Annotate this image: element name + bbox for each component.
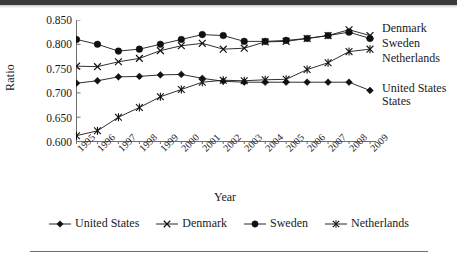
endpoint-label-united-states-line2: States: [382, 95, 411, 108]
y-tick-label: 0.850: [30, 15, 72, 27]
legend-label: Sweden: [270, 216, 308, 231]
legend-label: United States: [75, 216, 139, 231]
legend-marker-icon: [48, 218, 72, 230]
data-series-layer: [76, 26, 373, 139]
endpoint-label-netherlands: Netherlands: [382, 52, 440, 65]
x-axis-tick-labels: 1995199619971998199920002001200220032004…: [76, 144, 396, 188]
y-axis-title: Ratio: [3, 48, 18, 108]
y-tick-label: 0.750: [30, 64, 72, 76]
endpoint-label-sweden: Sweden: [382, 37, 420, 50]
legend-item-sweden[interactable]: Sweden: [243, 216, 308, 231]
legend-item-united-states[interactable]: United States: [48, 216, 139, 231]
y-tick-label: 0.650: [30, 113, 72, 125]
x-axis-title: Year: [150, 190, 300, 205]
legend-item-netherlands[interactable]: Netherlands: [324, 216, 409, 231]
y-tick-label: 0.700: [30, 88, 72, 100]
bottom-divider-rule: [30, 251, 428, 252]
legend-item-denmark[interactable]: Denmark: [155, 216, 227, 231]
legend-marker-icon: [324, 218, 348, 230]
legend-label: Denmark: [182, 216, 227, 231]
chart-figure: Ratio 0.850 0.800 0.750 0.700 0.650 0.60…: [0, 8, 457, 258]
y-axis-tick-labels: 0.850 0.800 0.750 0.700 0.650 0.600: [28, 20, 72, 142]
y-tick-label: 0.800: [30, 39, 72, 51]
legend-marker-icon: [243, 218, 267, 230]
plot-svg: [76, 20, 386, 144]
endpoint-label-united-states: United States: [382, 82, 446, 95]
y-tick-label: 0.600: [30, 137, 72, 149]
chart-legend: United StatesDenmarkSwedenNetherlands: [0, 216, 457, 231]
legend-marker-icon: [155, 218, 179, 230]
endpoint-label-denmark: Denmark: [382, 22, 427, 35]
plot-area: [76, 20, 376, 142]
legend-label: Netherlands: [351, 216, 409, 231]
